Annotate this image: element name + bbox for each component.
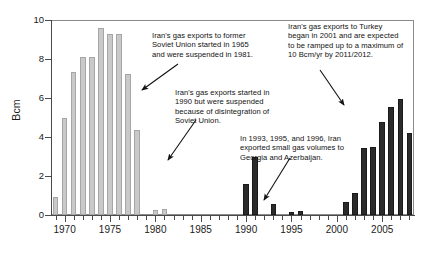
x-tick-2000	[337, 215, 338, 222]
gas-exports-bar-chart: 0246810 19701975198019851990199520002005…	[0, 0, 424, 263]
x-tick-label-1990: 1990	[226, 224, 266, 235]
y-tick-6	[45, 98, 51, 99]
x-tick-2004	[373, 215, 374, 220]
x-tick-1974	[101, 215, 102, 220]
x-tick-1997	[310, 215, 311, 220]
annotation-georgia-azerbaijan: In 1993, 1995, and 1996, Iran exported s…	[240, 134, 350, 162]
y-tick-10	[45, 20, 51, 21]
bar-1971	[71, 72, 77, 215]
bar-1990	[243, 184, 249, 215]
x-tick-1993	[273, 215, 274, 220]
y-tick-label-8: 8	[22, 54, 44, 64]
y-tick-label-10: 10	[22, 15, 44, 25]
x-tick-1999	[328, 215, 329, 220]
y-tick-label-0: 0	[22, 210, 44, 220]
y-tick-label-6: 6	[22, 93, 44, 103]
x-tick-2005	[382, 215, 383, 222]
y-tick-0	[45, 215, 51, 216]
bar-1972	[80, 57, 86, 215]
x-axis-line	[51, 215, 415, 216]
bar-1991	[252, 157, 258, 216]
bar-2004	[370, 147, 376, 215]
x-tick-1988	[228, 215, 229, 220]
bar-2008	[407, 133, 413, 215]
annotation-nineties-suspension: Iran's gas exports started in 1990 but w…	[175, 88, 285, 125]
bar-2001	[343, 202, 349, 215]
x-tick-1972	[83, 215, 84, 220]
y-tick-label-4: 4	[22, 132, 44, 142]
x-tick-2003	[364, 215, 365, 220]
x-tick-1976	[119, 215, 120, 220]
x-tick-label-1985: 1985	[181, 224, 221, 235]
x-tick-1978	[137, 215, 138, 220]
x-tick-1971	[74, 215, 75, 220]
annotation-turkey-exports: Iran's gas exports to Turkey began in 20…	[288, 22, 404, 59]
x-tick-1969	[56, 215, 57, 220]
x-tick-label-2000: 2000	[317, 224, 357, 235]
x-tick-2002	[355, 215, 356, 220]
y-axis-title: Bcm	[10, 80, 22, 140]
x-tick-2007	[400, 215, 401, 220]
x-tick-1991	[255, 215, 256, 220]
bar-1975	[107, 34, 113, 215]
x-tick-1998	[319, 215, 320, 220]
bar-1973	[89, 57, 95, 215]
bar-1977	[125, 74, 131, 215]
bar-1993	[271, 204, 277, 215]
x-tick-label-1970: 1970	[45, 224, 85, 235]
bar-1976	[116, 34, 122, 215]
x-tick-label-2005: 2005	[362, 224, 402, 235]
x-tick-1977	[128, 215, 129, 220]
x-tick-2001	[346, 215, 347, 220]
x-tick-1979	[146, 215, 147, 220]
y-tick-8	[45, 59, 51, 60]
x-tick-1984	[192, 215, 193, 220]
x-tick-label-1995: 1995	[271, 224, 311, 235]
bar-2003	[361, 148, 367, 215]
bar-2006	[388, 107, 394, 215]
x-tick-1996	[301, 215, 302, 220]
x-tick-label-1975: 1975	[90, 224, 130, 235]
bar-1970	[62, 118, 68, 216]
x-tick-1992	[264, 215, 265, 220]
x-tick-1985	[201, 215, 202, 222]
x-tick-1973	[92, 215, 93, 220]
x-tick-1995	[291, 215, 292, 222]
x-tick-1989	[237, 215, 238, 220]
y-tick-2	[45, 176, 51, 177]
x-tick-1970	[65, 215, 66, 222]
x-tick-1986	[210, 215, 211, 220]
x-tick-2006	[391, 215, 392, 220]
x-tick-label-1980: 1980	[135, 224, 175, 235]
bar-2002	[352, 193, 358, 215]
x-tick-1994	[282, 215, 283, 220]
x-tick-1975	[110, 215, 111, 222]
bar-1978	[134, 130, 140, 215]
y-tick-4	[45, 137, 51, 138]
x-tick-2008	[409, 215, 410, 220]
bar-2005	[379, 122, 385, 215]
bar-2007	[398, 99, 404, 215]
y-axis-line	[51, 20, 52, 216]
x-tick-1983	[183, 215, 184, 220]
bar-1974	[98, 28, 104, 215]
x-tick-1981	[164, 215, 165, 220]
x-tick-1990	[246, 215, 247, 222]
y-tick-label-2: 2	[22, 171, 44, 181]
x-tick-1980	[155, 215, 156, 222]
bar-1969	[53, 197, 59, 215]
x-tick-1982	[174, 215, 175, 220]
x-tick-1987	[219, 215, 220, 220]
annotation-soviet-exports: Iran's gas exports to former Soviet Unio…	[152, 31, 256, 59]
